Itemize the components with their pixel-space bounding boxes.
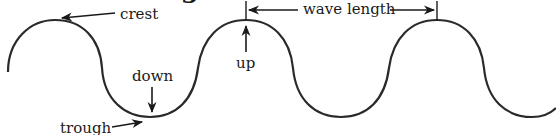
trough-label: trough (60, 119, 111, 135)
trough-annotation: trough (60, 119, 142, 135)
diagram-heading-clipped: Wavelength (59, 0, 230, 4)
crest-label: crest (120, 5, 158, 23)
crest-annotation: crest (62, 5, 158, 23)
wavelength-annotation: wave length (246, 0, 437, 21)
trough-arrow (112, 122, 142, 127)
down-label: down (132, 67, 173, 85)
down-annotation: down (132, 67, 173, 112)
wave-curve (8, 20, 556, 117)
wavelength-label: wave length (303, 0, 396, 18)
wave-diagram: Wavelength crest down trough up wave len… (0, 0, 556, 135)
up-label: up (236, 54, 255, 72)
crest-arrow (62, 13, 115, 18)
up-annotation: up (236, 26, 255, 72)
